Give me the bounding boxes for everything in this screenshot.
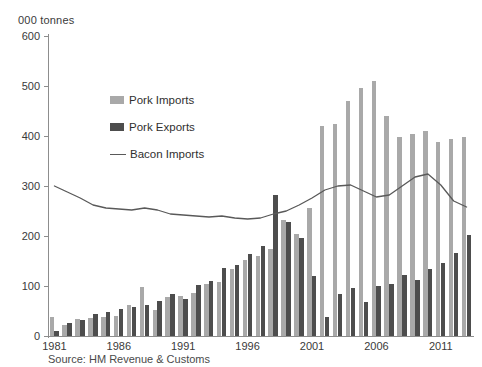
legend-line-icon-bacon-imports xyxy=(110,154,126,155)
y-axis-tick-label: 100 xyxy=(0,280,40,292)
x-axis-tick-label: 2011 xyxy=(429,340,453,352)
x-axis-line xyxy=(48,336,474,337)
plot-area xyxy=(48,36,473,336)
x-axis-tick-label: 1981 xyxy=(42,340,66,352)
legend-item-pork-exports: Pork Exports xyxy=(110,117,204,137)
y-axis-tick-label: 400 xyxy=(0,130,40,142)
x-axis-tick-label: 2006 xyxy=(364,340,388,352)
source-note: Source: HM Revenue & Customs xyxy=(48,353,210,365)
y-axis-tick-mark xyxy=(44,336,49,337)
y-axis-tick-label: 500 xyxy=(0,80,40,92)
x-axis-tick-label: 1991 xyxy=(171,340,195,352)
legend-label-pork-exports: Pork Exports xyxy=(129,121,195,133)
legend-item-bacon-imports: Bacon Imports xyxy=(110,144,204,164)
bacon-imports-line xyxy=(48,36,473,336)
legend-swatch-icon-pork-exports xyxy=(110,123,124,131)
legend-label-pork-imports: Pork Imports xyxy=(129,94,194,106)
legend-label-bacon-imports: Bacon Imports xyxy=(130,148,204,160)
y-axis-tick-label: 300 xyxy=(0,180,40,192)
y-axis-tick-label: 0 xyxy=(0,330,40,342)
y-axis-tick-label: 200 xyxy=(0,230,40,242)
y-axis-tick-label: 600 xyxy=(0,30,40,42)
chart-container: 000 tonnes 0100200300400500600 198119861… xyxy=(0,0,482,367)
x-axis-tick-label: 1996 xyxy=(235,340,259,352)
x-axis-tick-label: 2001 xyxy=(300,340,324,352)
legend-swatch-icon-pork-imports xyxy=(110,96,124,104)
line-path-bacon-imports xyxy=(54,174,466,219)
y-axis-unit-caption: 000 tonnes xyxy=(18,14,74,26)
legend-item-pork-imports: Pork Imports xyxy=(110,90,204,110)
chart-legend: Pork Imports Pork Exports Bacon Imports xyxy=(110,90,204,171)
x-axis-tick-label: 1986 xyxy=(107,340,131,352)
